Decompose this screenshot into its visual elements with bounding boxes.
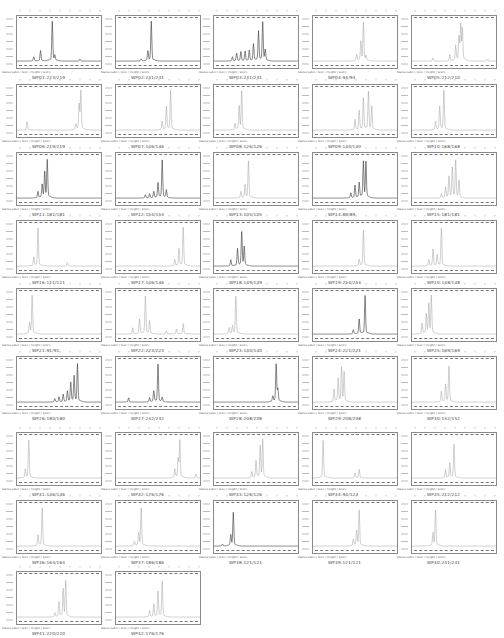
trace [116, 572, 200, 624]
plot-area [411, 500, 497, 554]
trace [313, 85, 397, 137]
y-axis-ticks [397, 17, 410, 67]
size-scale-ticks [115, 351, 201, 355]
size-scale-ticks [213, 351, 299, 355]
electropherogram-panel: Status Label | Size | Height | ScoreWP14… [298, 152, 396, 220]
trace [214, 357, 298, 409]
panel-legend: Status Label | Size | Height | Score [298, 488, 346, 491]
plot-area [312, 152, 398, 206]
trace [412, 221, 496, 273]
plot-area [312, 356, 398, 410]
plot-area [411, 15, 497, 69]
size-scale-ticks [213, 283, 299, 287]
plot-area [312, 84, 398, 138]
y-axis-ticks [397, 502, 410, 552]
y-axis-ticks [199, 502, 212, 552]
trace [313, 221, 397, 273]
y-axis-ticks [199, 154, 212, 204]
y-axis-ticks [199, 290, 212, 340]
trace [313, 357, 397, 409]
y-axis-ticks [101, 86, 114, 136]
size-scale-ticks [213, 147, 299, 151]
trace [313, 433, 397, 485]
size-scale-ticks [115, 10, 201, 14]
locus-label: WP30:152/152 [427, 416, 460, 421]
plot-area [213, 288, 299, 342]
electropherogram-panel: Status Label | Size | Height | ScoreWP03… [199, 15, 297, 83]
electropherogram-panel: Status Label | Size | Height | ScoreWP18… [199, 220, 297, 288]
electropherogram-panel: Status Label | Size | Height | ScoreWP34… [298, 432, 396, 500]
size-scale-ticks [411, 427, 497, 431]
panel-legend: Status Label | Size | Height | Score [199, 276, 247, 279]
electropherogram-panel: Status Label | Size | Height | ScoreWP10… [397, 84, 495, 152]
panel-legend: Status Label | Size | Height | Score [397, 140, 445, 143]
trace [17, 357, 101, 409]
plot-area [213, 220, 299, 274]
y-axis-ticks [101, 154, 114, 204]
panel-legend: Status Label | Size | Height | Score [397, 276, 445, 279]
panel-legend: Status Label | Size | Height | Score [2, 208, 50, 211]
y-axis-ticks [397, 290, 410, 340]
electropherogram-panel: Status Label | Size | Height | ScoreWP20… [397, 220, 495, 288]
panel-legend: Status Label | Size | Height | Score [2, 412, 50, 415]
y-axis-ticks [101, 434, 114, 484]
size-scale-ticks [411, 495, 497, 499]
y-axis-ticks [2, 573, 15, 623]
plot-area [16, 571, 102, 625]
panel-legend: Status Label | Size | Height | Score [101, 140, 149, 143]
panel-legend: Status Label | Size | Height | Score [298, 412, 346, 415]
trace [313, 153, 397, 205]
y-axis-ticks [101, 17, 114, 67]
plot-area [16, 15, 102, 69]
trace [17, 153, 101, 205]
panel-legend: Status Label | Size | Height | Score [298, 556, 346, 559]
trace [116, 433, 200, 485]
electropherogram-panel: Status Label | Size | Height | ScoreWP21… [2, 288, 100, 356]
electropherogram-panel: Status Label | Size | Height | ScoreWP11… [2, 152, 100, 220]
panel-legend: Status Label | Size | Height | Score [2, 344, 50, 347]
trace [313, 501, 397, 553]
electropherogram-panel: Status Label | Size | Height | ScoreWP30… [397, 356, 495, 424]
trace [214, 221, 298, 273]
size-scale-ticks [115, 79, 201, 83]
size-scale-ticks [16, 147, 102, 151]
plot-area [213, 356, 299, 410]
y-axis-ticks [199, 434, 212, 484]
trace [412, 357, 496, 409]
y-axis-ticks [101, 290, 114, 340]
y-axis-ticks [2, 502, 15, 552]
electropherogram-panel: Status Label | Size | Height | ScoreWP08… [199, 84, 297, 152]
electropherogram-panel: Status Label | Size | Height | ScoreWP35… [397, 432, 495, 500]
y-axis-ticks [199, 86, 212, 136]
panel-legend: Status Label | Size | Height | Score [199, 488, 247, 491]
size-scale-ticks [411, 351, 497, 355]
plot-area [115, 220, 201, 274]
plot-area [213, 15, 299, 69]
panel-legend: Status Label | Size | Height | Score [101, 208, 149, 211]
plot-area [312, 15, 398, 69]
trace [116, 357, 200, 409]
panel-legend: Status Label | Size | Height | Score [199, 208, 247, 211]
size-scale-ticks [312, 79, 398, 83]
size-scale-ticks [411, 10, 497, 14]
trace [17, 289, 101, 341]
y-axis-ticks [298, 222, 311, 272]
plot-area [411, 288, 497, 342]
electropherogram-panel: Status Label | Size | Height | ScoreWP19… [298, 220, 396, 288]
y-axis-ticks [101, 358, 114, 408]
electropherogram-panel: Status Label | Size | Height | ScoreWP38… [199, 500, 297, 568]
trace [412, 289, 496, 341]
locus-label: WP27:242/242 [131, 416, 164, 421]
electropherogram-panel: Status Label | Size | Height | ScoreWP27… [101, 356, 199, 424]
panel-legend: Status Label | Size | Height | Score [2, 276, 50, 279]
panel-legend: Status Label | Size | Height | Score [199, 344, 247, 347]
size-scale-ticks [312, 10, 398, 14]
plot-area [312, 288, 398, 342]
electropherogram-panel: Status Label | Size | Height | ScoreWP24… [298, 288, 396, 356]
locus-label: WP39:121/121 [328, 560, 361, 565]
size-scale-ticks [16, 10, 102, 14]
panel-legend: Status Label | Size | Height | Score [199, 556, 247, 559]
plot-area [411, 152, 497, 206]
size-scale-ticks [213, 10, 299, 14]
locus-label: WP29:208/208 [328, 416, 361, 421]
